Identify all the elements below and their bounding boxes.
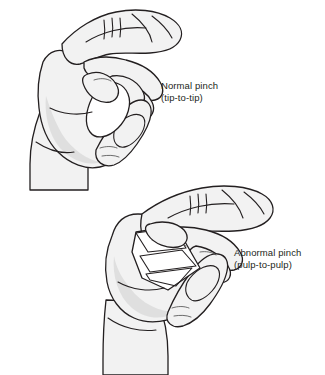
abnormal-pinch-label: Abnormal pinch (pulp-to-pulp): [234, 247, 301, 270]
normal-pinch-title: Normal pinch: [161, 80, 218, 91]
abnormal-pinch-title: Abnormal pinch: [234, 247, 301, 258]
normal-pinch-label: Normal pinch (tip-to-tip): [161, 80, 218, 103]
abnormal-pinch-subtitle: (pulp-to-pulp): [234, 259, 301, 271]
pinch-grip-figure: .sk { fill:#f2f2f2; stroke:#231f20; stro…: [0, 0, 325, 375]
lower-hand-group: [103, 186, 273, 375]
normal-pinch-subtitle: (tip-to-tip): [161, 92, 218, 104]
hand-illustrations: .sk { fill:#f2f2f2; stroke:#231f20; stro…: [0, 0, 325, 375]
upper-hand-group: [30, 10, 182, 190]
upper-hand-folded-fingers: [62, 10, 182, 64]
